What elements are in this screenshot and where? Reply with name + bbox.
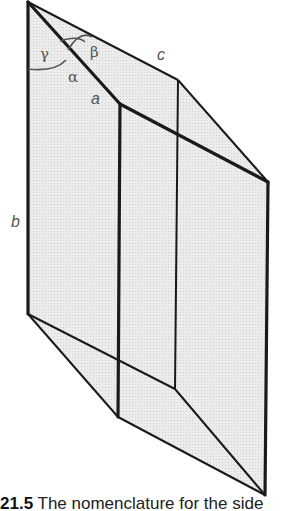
edge-label-c: c [157,47,165,63]
unit-cell-diagram [0,0,307,511]
figure-caption: 21.5 The nomenclature for the side [0,494,263,511]
alpha-label: α [68,70,78,85]
figure-number: 21.5 [0,494,33,511]
edge-label-a: a [91,91,100,107]
beta-label: β [90,45,99,60]
gamma-label: γ [40,47,49,62]
figure-caption-text: The nomenclature for the side [38,494,264,511]
edge-label-b: b [11,214,20,230]
